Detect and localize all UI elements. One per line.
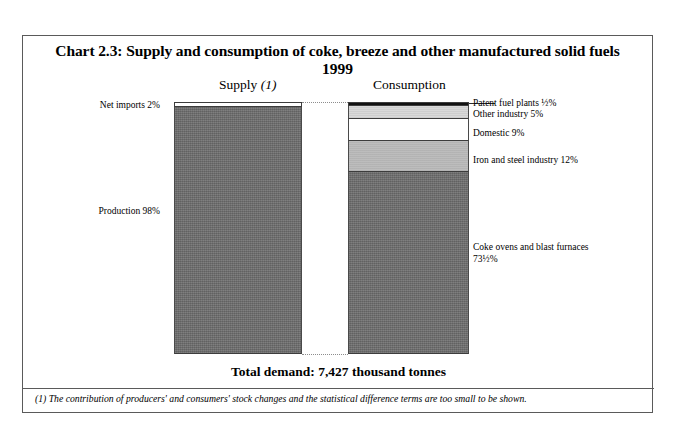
consumption-segment-domestic <box>348 119 469 142</box>
label-net-imports: Net imports 2% <box>23 99 160 111</box>
consumption-segment-coke-ovens-and-blast-furnaces <box>348 172 469 354</box>
consumption-bar <box>348 102 469 354</box>
plot-area: Net imports 2% Production 98% Patent fue… <box>23 36 654 414</box>
consumption-segment-other-industry <box>348 106 469 119</box>
chart-panel: Chart 2.3: Supply and consumption of cok… <box>22 35 653 413</box>
consumption-segment-iron-and-steel-industry <box>348 141 469 171</box>
label-domestic: Domestic 9% <box>473 127 524 139</box>
supply-segment-production <box>174 107 302 354</box>
footnote-text: (1) The contribution of producers' and c… <box>35 393 645 404</box>
connector-line-top <box>302 102 348 103</box>
label-other-industry: Other industry 5% <box>473 108 543 120</box>
total-demand-caption: Total demand: 7,427 thousand tonnes <box>23 364 654 380</box>
label-iron-and-steel-industry: Iron and steel industry 12% <box>473 154 578 166</box>
footnote-divider <box>23 388 654 389</box>
supply-bar <box>174 102 302 354</box>
label-coke-ovens-and-blast-furnaces: Coke ovens and blast furnaces 73½% <box>473 241 593 265</box>
label-production: Production 98% <box>23 205 160 217</box>
connector-line-bottom <box>302 354 348 355</box>
